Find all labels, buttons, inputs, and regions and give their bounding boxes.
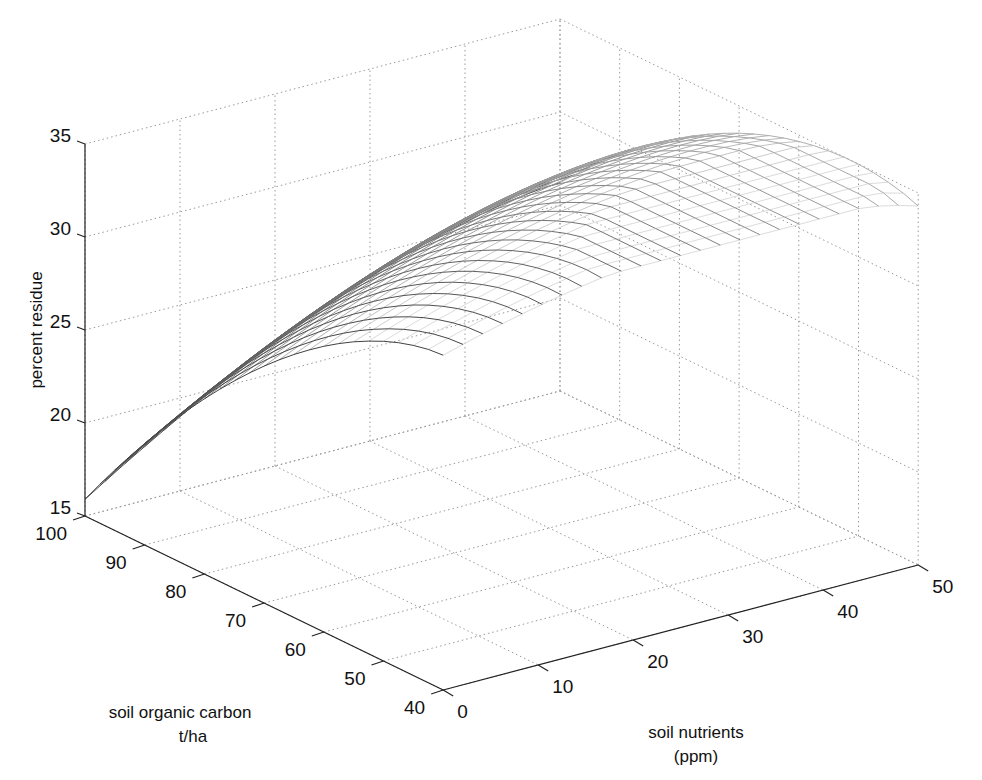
z-tick-label: 35 [50, 125, 71, 146]
mesh-line-nutrients [224, 261, 582, 382]
x-tick [538, 665, 548, 671]
y-tick [431, 690, 443, 694]
mesh-line-soc [443, 205, 918, 355]
y-tick-label: 80 [165, 581, 186, 602]
z-axis-title: percent residue [27, 271, 46, 388]
z-tick-label: 20 [50, 404, 71, 425]
y-tick-label: 60 [285, 639, 306, 660]
x-tick-label: 0 [457, 701, 468, 722]
y-tick-label: 50 [344, 668, 365, 689]
mesh-line-nutrients [184, 282, 542, 413]
floor-grid-line [275, 466, 633, 640]
mesh-line-nutrients [144, 305, 502, 447]
x-axis-title-line2: (ppm) [674, 747, 718, 766]
z-tick [77, 141, 85, 144]
x-tick [443, 690, 453, 696]
surface-mesh [85, 133, 918, 499]
y-tick-label: 40 [404, 697, 425, 718]
floor-grid-line [370, 441, 728, 615]
mesh-line-nutrients [501, 145, 859, 209]
x-tick [728, 615, 738, 621]
floor-grid-line [324, 507, 799, 632]
mesh-line-soc [339, 146, 814, 344]
y-tick [372, 661, 384, 665]
floor-grid-line [204, 449, 679, 574]
right-wall-grid-line [560, 205, 918, 379]
y-tick [252, 603, 264, 607]
x-axis-title-line1: soil nutrients [648, 723, 743, 742]
grid-lines [85, 19, 918, 690]
x-tick [633, 640, 643, 646]
x-tick-label: 30 [742, 626, 763, 647]
right-wall-grid-line [560, 391, 918, 565]
mesh-line-soc [294, 136, 769, 355]
x-tick-label: 10 [552, 676, 573, 697]
floor-grid-line [264, 478, 739, 603]
tick-labels: 152025303540506070809010001020304050 [35, 125, 953, 722]
z-tick [77, 420, 85, 423]
floor-grid-line [145, 420, 620, 545]
z-tick [77, 327, 85, 330]
x-tick [823, 590, 833, 596]
back-wall-grid-line [85, 112, 560, 237]
x-tick-label: 40 [837, 601, 858, 622]
y-tick [312, 632, 324, 636]
floor-grid-line [85, 391, 560, 516]
y-tick [192, 574, 204, 578]
y-tick [73, 516, 85, 520]
mesh-line-soc [204, 138, 679, 399]
surface-chart: 152025303540506070809010001020304050 per… [0, 0, 982, 780]
back-wall-grid-line [85, 391, 560, 516]
mesh-line-nutrients [263, 240, 621, 351]
mesh-line-nutrients [125, 317, 483, 464]
mesh-line-soc [249, 133, 724, 373]
y-tick-label: 70 [225, 610, 246, 631]
mesh-line-nutrients [85, 341, 443, 499]
mesh-line-soc [428, 193, 903, 350]
x-tick-label: 20 [647, 651, 668, 672]
y-tick-label: 100 [35, 523, 67, 544]
y-axis-title-line2: t/ha [179, 727, 208, 746]
y-axis-title-line1: soil organic carbon [109, 703, 252, 722]
back-wall-grid-line [85, 19, 560, 144]
floor-grid-line [180, 491, 538, 665]
x-tick-label: 50 [932, 576, 953, 597]
floor-grid-line [384, 536, 859, 661]
x-axis-line [443, 565, 918, 690]
mesh-line-nutrients [283, 230, 641, 336]
y-tick [133, 545, 145, 549]
x-tick [918, 565, 928, 571]
y-tick-label: 90 [106, 552, 127, 573]
right-wall-grid-line [560, 112, 918, 286]
z-tick-label: 15 [50, 497, 71, 518]
z-tick [77, 513, 85, 516]
z-tick-label: 30 [50, 218, 71, 239]
z-tick-label: 25 [50, 311, 71, 332]
mesh-line-nutrients [105, 329, 463, 482]
z-tick [77, 234, 85, 237]
